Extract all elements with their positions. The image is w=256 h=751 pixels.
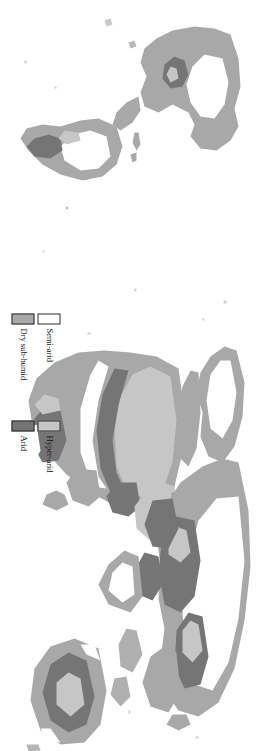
legend-swatch-dry-sub-humid-icon [11,313,34,324]
legend-label-arid: Arid [18,435,27,451]
legend-item-dry-sub-humid[interactable]: Dry sub-humid [11,313,34,380]
legend-group-hyperarid-arid: Hyper-arid Arid [11,420,60,472]
legend-swatch-hyper-arid-icon [37,420,60,431]
legend-group-semiarid-drysubhumid: Semi-arid Dry sub-humid [11,313,60,380]
aridity-map-figure: Hyper-arid Arid Semi-arid Dry sub-humid [0,0,256,751]
legend-swatch-semi-arid-icon [37,313,60,324]
legend-label-hyper-arid: Hyper-arid [44,435,53,472]
legend-item-hyper-arid[interactable]: Hyper-arid [37,420,60,472]
legend-item-arid[interactable]: Arid [11,420,34,472]
landmass-new-zealand [26,744,40,751]
legend-label-dry-sub-humid: Dry sub-humid [18,328,27,380]
legend-label-semi-arid: Semi-arid [44,328,53,362]
legend-swatch-arid-icon [11,420,34,431]
legend-item-semi-arid[interactable]: Semi-arid [37,313,60,380]
rotated-map-container: Hyper-arid Arid Semi-arid Dry sub-humid [0,0,256,751]
